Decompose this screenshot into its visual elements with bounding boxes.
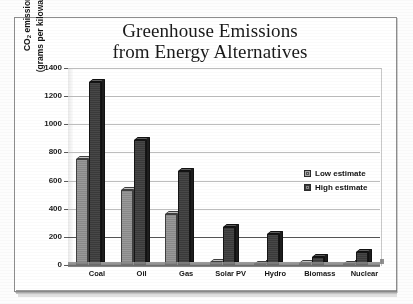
y-axis-title: CO2 emissions (grams per kilowatt-hour) — [22, 0, 46, 96]
figure-frame-shadow-secondary — [18, 294, 397, 297]
plot-back-wall — [68, 68, 73, 265]
bar-coal-low — [76, 159, 88, 265]
y-axis-tick-label-400: 400 — [22, 204, 62, 213]
bar-side-face — [146, 137, 150, 262]
y-axis-tick-label-600: 600 — [22, 176, 62, 185]
gridline-400 — [68, 209, 380, 210]
bar-face — [178, 171, 190, 265]
y-axis-tick-mark-1400 — [64, 68, 68, 69]
bar-face — [165, 214, 177, 265]
bar-side-face — [235, 224, 239, 262]
bar-face — [89, 82, 101, 265]
y-axis-tick-label-1000: 1000 — [22, 119, 62, 128]
bar-face — [267, 234, 279, 265]
legend-item-high-estimate: High estimate — [304, 181, 367, 193]
gridline-800 — [68, 152, 380, 153]
legend-swatch-high-estimate — [304, 184, 311, 191]
y-axis-tick-mark-600 — [64, 181, 68, 182]
chart-title-line-2: from Energy Alternatives — [60, 41, 360, 62]
bar-side-face — [101, 79, 105, 262]
y-axis-title-line-2: (grams per kilowatt-hour) — [35, 0, 46, 96]
y-axis-tick-label-800: 800 — [22, 147, 62, 156]
x-axis-label-nuclear: Nuclear — [337, 269, 391, 278]
chart-legend: Low estimateHigh estimate — [304, 167, 367, 195]
bar-hydro-high — [267, 234, 279, 265]
bar-side-face — [279, 231, 283, 262]
y-axis-tick-mark-200 — [64, 237, 68, 238]
scanned-page: Greenhouse Emissions from Energy Alterna… — [0, 0, 413, 304]
y-axis-title-subscript: 2 — [26, 35, 32, 38]
gridline-1400 — [68, 68, 380, 69]
plot-floor-edge — [380, 259, 384, 264]
plot-floor — [68, 262, 380, 267]
legend-item-low-estimate: Low estimate — [304, 167, 367, 179]
y-axis-tick-label-1200: 1200 — [22, 91, 62, 100]
y-axis-tick-mark-800 — [64, 152, 68, 153]
y-axis-tick-mark-1000 — [64, 124, 68, 125]
gridline-1200 — [68, 96, 380, 97]
gridline-1000 — [68, 124, 380, 125]
plot-area: 1400120010008006004002000 CoalOilGasSola… — [68, 68, 380, 265]
bar-face — [76, 159, 88, 265]
bar-gas-high — [178, 171, 190, 265]
legend-label: High estimate — [315, 183, 367, 192]
bar-gas-low — [165, 214, 177, 265]
y-axis-tick-label-200: 200 — [22, 232, 62, 241]
y-axis-tick-label-1400: 1400 — [22, 63, 62, 72]
bar-face — [134, 140, 146, 265]
y-axis-title-line-1: CO2 emissions — [22, 0, 32, 51]
y-axis-tick-mark-1200 — [64, 96, 68, 97]
bar-solar-pv-high — [223, 227, 235, 265]
bar-oil-high — [134, 140, 146, 265]
y-axis-title-emissions: emissions — [22, 0, 32, 35]
y-axis-tick-mark-400 — [64, 209, 68, 210]
y-axis-tick-label-0: 0 — [22, 260, 62, 269]
y-axis-title-co: CO — [22, 38, 32, 51]
bar-face — [223, 227, 235, 265]
chart-title: Greenhouse Emissions from Energy Alterna… — [60, 20, 360, 62]
bar-side-face — [190, 168, 194, 262]
bar-face — [121, 190, 133, 265]
bar-coal-high — [89, 82, 101, 265]
bar-oil-low — [121, 190, 133, 265]
legend-swatch-low-estimate — [304, 170, 311, 177]
legend-label: Low estimate — [315, 169, 366, 178]
chart-title-line-1: Greenhouse Emissions — [122, 20, 298, 41]
